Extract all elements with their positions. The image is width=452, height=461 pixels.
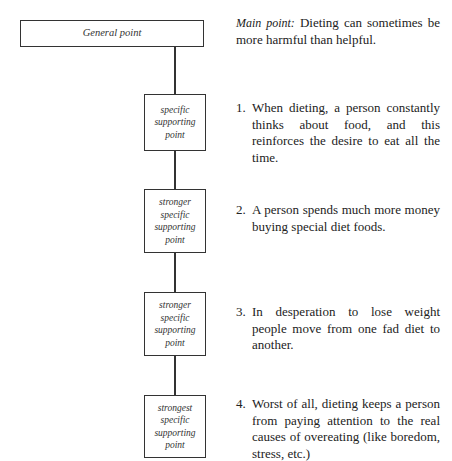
item-body: A person spends much more money buying s… (252, 202, 440, 235)
connector-line (174, 252, 176, 293)
box-line: specific (154, 209, 195, 222)
box-line: stronger (154, 299, 195, 312)
box-line: specific (154, 414, 195, 427)
item-body: In desperation to lose weight people mov… (252, 304, 440, 354)
box-line: strongest (154, 402, 195, 415)
item-number: 3. (236, 304, 252, 354)
box-line: specific (154, 104, 195, 117)
box-line: supporting (154, 221, 195, 234)
supporting-item-4: 4. Worst of all, dieting keeps a person … (236, 396, 440, 461)
connector-line (174, 150, 176, 190)
supporting-point-box-4: strongest specific supporting point (144, 395, 206, 458)
general-point-label: General point (83, 27, 142, 40)
supporting-point-box-2: stronger specific supporting point (144, 189, 206, 253)
supporting-point-box-3: stronger specific supporting point (144, 292, 206, 356)
box-line: point (154, 439, 195, 452)
box-line: supporting (154, 324, 195, 337)
item-number: 4. (236, 396, 252, 461)
supporting-point-box-1: specific supporting point (144, 94, 206, 151)
box-line: point (154, 234, 195, 247)
main-point-label: Main point: (236, 16, 295, 30)
item-number: 2. (236, 202, 252, 235)
box-line: stronger (154, 196, 195, 209)
connector-line (174, 355, 176, 396)
supporting-item-3: 3. In desperation to lose weight people … (236, 304, 440, 354)
general-point-box: General point (20, 20, 204, 47)
item-number: 1. (236, 100, 252, 166)
box-line: supporting (154, 116, 195, 129)
item-body: When dieting, a person constantly thinks… (252, 100, 440, 166)
supporting-item-2: 2. A person spends much more money buyin… (236, 202, 440, 235)
supporting-item-1: 1. When dieting, a person constantly thi… (236, 100, 440, 166)
box-line: point (154, 129, 195, 142)
connector-line (174, 46, 176, 94)
main-point: Main point: Dieting can sometimes be mor… (236, 15, 440, 48)
item-body: Worst of all, dieting keeps a person fro… (252, 396, 440, 461)
box-line: point (154, 337, 195, 350)
box-line: specific (154, 312, 195, 325)
box-line: supporting (154, 427, 195, 440)
